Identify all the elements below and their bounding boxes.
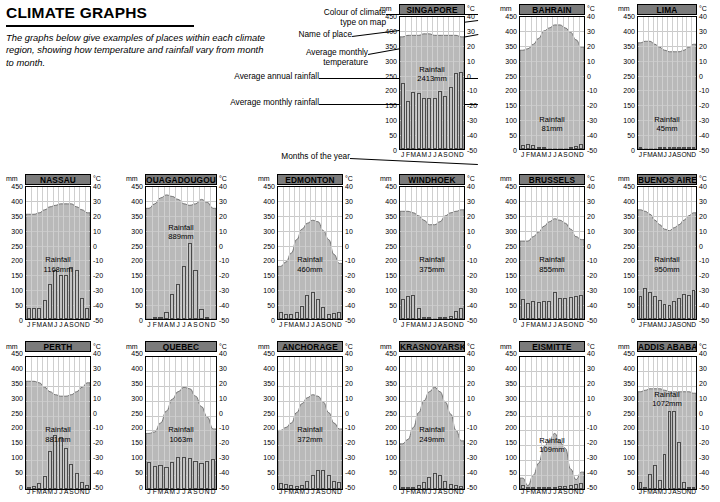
month-axis-labels: JFMAMJJASOND [400,488,464,496]
month-label: D [691,151,696,159]
rainfall-bar [199,463,203,489]
rainfall-bar [80,298,84,319]
rainfall-bar [639,296,643,319]
annotation-line: Name of place [202,30,352,40]
chart-plot-area: Rainfall855mm [519,186,585,320]
temperature-axis-tick: -40 [93,469,111,476]
rainfall-bar [300,306,304,319]
annotation-line: Average annual rainfall [169,72,319,82]
temperature-axis-tick: -40 [93,302,111,309]
rainfall-axis-tick: 0 [380,317,397,324]
gridline-vertical [331,187,332,319]
right-axis-unit: °C [587,175,595,182]
rainfall-bar [32,308,36,319]
rainfall-axis-tick: 300 [380,58,397,65]
temperature-axis-tick: 20 [587,380,605,387]
gridline-vertical [563,357,564,489]
rainfall-axis-tick: 450 [6,183,23,190]
temperature-axis-tick: 10 [93,228,111,235]
rainfall-axis-tick: 400 [6,198,23,205]
gridline-vertical [294,187,295,319]
gridline-vertical [283,187,284,319]
rainfall-axis-tick: 300 [380,228,397,235]
rainfall-axis-tick: 250 [126,243,143,250]
temperature-axis-tick: -20 [467,439,485,446]
rainfall-axis-tick: 150 [618,439,635,446]
gridline-vertical [321,187,322,319]
temperature-axis-tick: -10 [345,424,363,431]
temperature-axis-tick: 40 [93,183,111,190]
rainfall-bar [692,147,696,149]
temperature-axis-tick: 20 [93,213,111,220]
rainfall-bar [672,411,676,489]
chart-plot-area: Rainfall45mm [637,16,697,150]
temperature-axis-tick: -40 [699,469,717,476]
temperature-axis-tick: 20 [467,213,485,220]
rainfall-bar [682,294,686,319]
gridline-vertical [432,357,433,489]
temperature-axis-tick: 0 [467,243,485,250]
left-axis-unit: mm [618,5,630,12]
temperature-axis-tick: 0 [93,243,111,250]
rainfall-bar [321,470,325,489]
rainfall-bar [653,296,657,319]
temperature-axis-tick: -40 [467,302,485,309]
temperature-axis-tick: 20 [93,380,111,387]
rainfall-bar [526,303,530,319]
temperature-axis-tick: -40 [345,469,363,476]
climate-chart: ADDIS ABABAmm°CRainfall1072mm45040035030… [618,344,716,502]
rainfall-label-line: 2413mm [400,74,464,83]
rainfall-axis-tick: 450 [500,13,517,20]
chart-title: OUAGADOUGOU [145,174,217,185]
rainfall-axis-tick: 300 [618,228,635,235]
rainfall-axis-tick: 350 [618,380,635,387]
temperature-axis-tick: 30 [467,365,485,372]
temperature-axis-tick: -10 [93,257,111,264]
rainfall-bar [69,464,73,489]
gridline-vertical [691,357,692,489]
annual-rainfall-label: Rainfall249mm [400,425,464,443]
temperature-axis-tick: -40 [219,469,237,476]
rainfall-bar [542,301,546,319]
rainfall-bar [164,467,168,489]
month-label: D [210,488,216,496]
rainfall-axis-tick: 350 [6,213,23,220]
rainfall-axis-tick: 450 [258,350,275,357]
rainfall-axis-tick: 250 [618,243,635,250]
rainfall-axis-tick: 0 [500,147,517,154]
rainfall-axis-tick: 450 [380,13,397,20]
temperature-axis-tick: -20 [699,272,717,279]
rainfall-axis-tick: 200 [126,424,143,431]
rainfall-axis-tick: 400 [126,198,143,205]
climate-chart: NASSAUmm°CRainfall1168mm4504003503002502… [6,174,110,338]
gridline-vertical [37,357,38,489]
chart-title: QUEBEC [145,341,217,352]
rainfall-bar [569,297,573,319]
gridline-vertical [283,357,284,489]
rainfall-axis-tick: 100 [380,454,397,461]
rainfall-bar [279,312,283,319]
temperature-axis-tick: -30 [345,287,363,294]
annual-rainfall-label: Rainfall109mm [520,436,584,454]
right-axis-unit: °C [93,343,101,350]
rainfall-axis-tick: 50 [500,302,517,309]
chart-title: ANCHORAGE [277,341,343,352]
temperature-axis-tick: -50 [345,317,363,324]
temperature-axis-tick: 0 [467,73,485,80]
rainfall-axis-tick: 50 [6,469,23,476]
rainfall-axis-tick: 250 [126,410,143,417]
rainfall-label-line: Rainfall [400,255,464,264]
rainfall-bar [531,145,535,149]
gridline-vertical [31,187,32,319]
gridline-vertical [289,357,290,489]
rainfall-axis-tick: 400 [380,28,397,35]
temperature-axis-tick: -10 [467,87,485,94]
temperature-axis-tick: -20 [467,102,485,109]
temperature-axis-tick: 10 [467,395,485,402]
gridline-vertical [85,187,86,319]
rainfall-bar [668,147,672,149]
temperature-axis-tick: 30 [219,365,237,372]
rainfall-axis-tick: 200 [380,87,397,94]
temperature-axis-tick: 10 [699,228,717,235]
temperature-axis-tick: -40 [219,302,237,309]
